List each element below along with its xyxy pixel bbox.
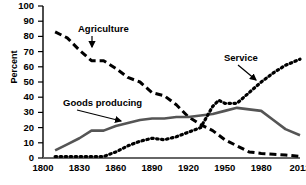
annotation-arrow bbox=[77, 110, 121, 121]
y-tick-label: 70 bbox=[8, 46, 34, 57]
chart-annotation-arrows bbox=[77, 36, 256, 121]
series-label-service: Service bbox=[224, 52, 258, 63]
chart-series-group bbox=[55, 32, 300, 157]
chart-container: Percent 0102030405060708090100 180018301… bbox=[0, 0, 306, 185]
y-tick-label: 10 bbox=[8, 137, 34, 148]
series-label-agriculture: Agriculture bbox=[78, 23, 129, 34]
y-tick-label: 50 bbox=[8, 76, 34, 87]
x-tick-label: 1980 bbox=[241, 162, 281, 173]
x-tick-label: 1950 bbox=[205, 162, 245, 173]
series-label-goods-producing: Goods producing bbox=[63, 97, 142, 108]
x-tick-label: 1830 bbox=[59, 162, 99, 173]
y-tick-label: 80 bbox=[8, 30, 34, 41]
y-tick-label: 90 bbox=[8, 15, 34, 26]
y-tick-label: 60 bbox=[8, 61, 34, 72]
y-tick-label: 100 bbox=[8, 0, 34, 11]
annotation-arrow bbox=[238, 65, 256, 80]
x-tick-label: 1860 bbox=[96, 162, 136, 173]
y-tick-label: 20 bbox=[8, 122, 34, 133]
x-tick-label: 2012 bbox=[280, 162, 306, 173]
chart-plot-area bbox=[0, 0, 306, 185]
x-tick-label: 1890 bbox=[132, 162, 172, 173]
x-tick-label: 1800 bbox=[23, 162, 63, 173]
x-tick-label: 1920 bbox=[168, 162, 208, 173]
y-tick-label: 30 bbox=[8, 106, 34, 117]
y-tick-marks bbox=[38, 6, 43, 158]
y-tick-label: 40 bbox=[8, 91, 34, 102]
